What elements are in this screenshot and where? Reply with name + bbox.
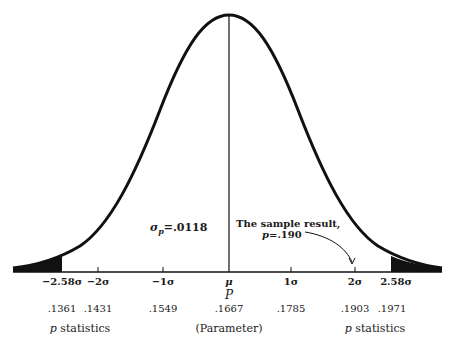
center-caption: (Parameter) [196,322,263,335]
tick-label-neg-2-58: −2.58σ [42,276,82,287]
mu-parameter-label: P [225,288,233,302]
tick-label-pos-2: 2σ [348,276,362,287]
value-neg-1: .1549 [149,303,178,314]
bell-curve [13,15,442,268]
tick-label-neg-1: −1σ [152,276,175,287]
tick-label-pos-1: 1σ [284,276,298,287]
tick-label-pos-2-58: 2.58σ [380,276,412,287]
value-pos-2: .1903 [341,303,370,314]
right-caption: p statistics [345,322,406,335]
value-mu: .1667 [215,303,244,314]
sigma-p-label: σp=.0118 [150,221,207,236]
sample-result-annotation: The sample result, p=.190 [236,218,340,240]
tick-label-mu: μ [225,276,232,287]
value-neg-2-58: .1361 [48,303,77,314]
value-neg-2: .1431 [84,303,113,314]
tick-label-neg-2: −2σ [87,276,110,287]
value-pos-2-58: .1971 [378,303,407,314]
value-pos-1: .1785 [277,303,306,314]
left-caption: p statistics [50,322,111,335]
